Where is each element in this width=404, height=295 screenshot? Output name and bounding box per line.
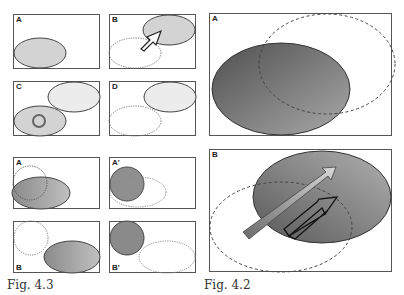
panel-label: C (16, 82, 22, 91)
fig42-caption: Fig. 4.2 (204, 278, 251, 292)
panel-label: B' (112, 263, 120, 272)
panel-label: B (112, 15, 118, 24)
fig43-panel-b: B (109, 15, 196, 69)
fig43-panel-b-prime: B' (110, 221, 196, 273)
panel-label: A (16, 158, 22, 167)
panel-label: D (112, 82, 118, 91)
panel-label: B (16, 263, 22, 272)
panel-label: A (212, 14, 218, 23)
fig42-panel-b: B (210, 150, 392, 273)
fig43-panel-b2: B (14, 221, 101, 273)
fig43-panel-a2: A (12, 158, 100, 210)
panel-label: A' (112, 158, 120, 167)
panel-label: B (212, 150, 218, 159)
figure-canvas: A B C D A A' B (0, 0, 404, 295)
fig43-panel-d: D (109, 82, 196, 137)
fig43-panel-a: A (14, 15, 100, 69)
panel-label: A (16, 15, 22, 24)
fig42-panel-a: A (210, 14, 396, 136)
fig43-caption: Fig. 4.3 (7, 278, 54, 292)
fig43-panel-c: C (14, 82, 101, 137)
fig43-panel-a-prime: A' (110, 158, 196, 209)
